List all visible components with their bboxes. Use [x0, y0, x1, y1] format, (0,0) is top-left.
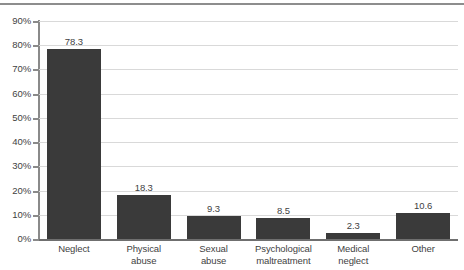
gridline	[39, 166, 458, 167]
y-axis-tick-label: 20%	[0, 186, 31, 196]
bar	[187, 216, 241, 239]
y-axis-tick-mark	[33, 239, 39, 241]
x-axis-category-label-line: Other	[381, 243, 464, 255]
bar	[256, 218, 310, 239]
bar	[326, 233, 380, 239]
y-axis-tick-mark	[33, 215, 39, 217]
gridline	[39, 21, 458, 22]
x-axis-category-label: Other	[381, 243, 464, 255]
y-axis-tick-mark	[33, 191, 39, 193]
gridline	[39, 118, 458, 119]
bar-value-label: 78.3	[44, 36, 104, 47]
gridline	[39, 191, 458, 192]
y-axis-tick-mark	[33, 118, 39, 120]
y-axis-tick-mark	[33, 69, 39, 71]
bar	[47, 49, 101, 239]
bar-value-label: 9.3	[184, 203, 244, 214]
y-axis-tick-labels-group: 0%10%20%30%40%50%60%70%80%90%	[0, 0, 31, 270]
y-axis-line	[38, 20, 40, 240]
bar-value-label: 18.3	[114, 182, 174, 193]
gridline	[39, 69, 458, 70]
bar	[396, 213, 450, 239]
bar-value-label: 10.6	[393, 200, 453, 211]
y-axis-tick-mark	[33, 45, 39, 47]
bar	[117, 195, 171, 239]
top-divider-rule	[0, 3, 464, 5]
y-axis-tick-label: 50%	[0, 113, 31, 123]
y-axis-tick-mark	[33, 21, 39, 23]
y-axis-tick-label: 40%	[0, 137, 31, 147]
y-axis-tick-label: 30%	[0, 161, 31, 171]
y-axis-tick-mark	[33, 166, 39, 168]
y-axis-tick-label: 70%	[0, 64, 31, 74]
x-axis-line	[33, 239, 458, 241]
y-axis-tick-label: 0%	[0, 234, 31, 244]
gridline	[39, 142, 458, 143]
x-axis-category-label-line: neglect	[311, 255, 395, 267]
y-axis-tick-label: 90%	[0, 16, 31, 26]
y-axis-tick-label: 80%	[0, 40, 31, 50]
gridline	[39, 94, 458, 95]
bar-chart-figure: 0%10%20%30%40%50%60%70%80%90% 78.318.39.…	[0, 0, 464, 270]
y-axis-tick-label: 60%	[0, 89, 31, 99]
y-axis-tick-label: 10%	[0, 210, 31, 220]
y-axis-tick-mark	[33, 94, 39, 96]
bar-value-label: 8.5	[253, 205, 313, 216]
y-axis-tick-mark	[33, 142, 39, 144]
bar-value-label: 2.3	[323, 220, 383, 231]
